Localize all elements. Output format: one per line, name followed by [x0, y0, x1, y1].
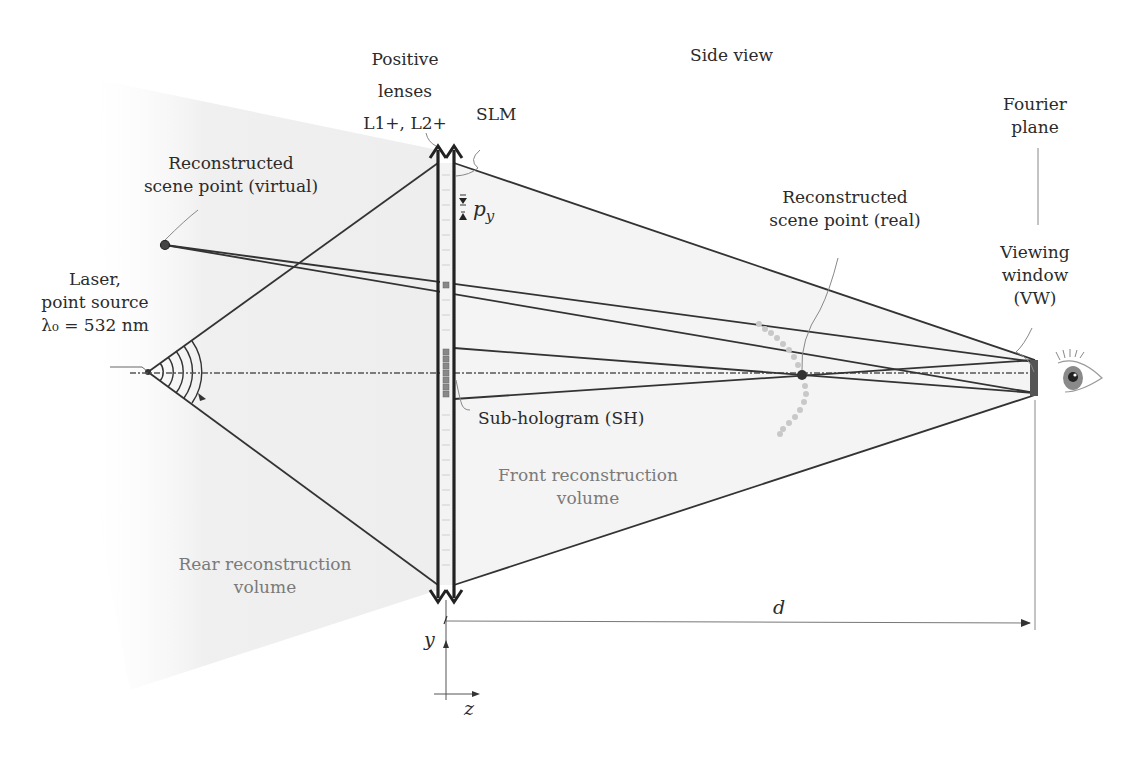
- eye-icon: [1056, 349, 1102, 392]
- distance-d-label: d: [773, 596, 785, 619]
- y-axis-arrow-icon: [443, 640, 449, 648]
- hologram-display-diagram: Side view Positive lenses L1+, L2+ SLM p…: [0, 0, 1139, 758]
- positive-lenses-line2: lenses: [350, 80, 460, 103]
- positive-lenses-line1: Positive: [350, 48, 460, 71]
- pixel-pitch-subscript: y: [486, 207, 494, 225]
- front-volume-label: Front reconstruction volume: [478, 464, 698, 510]
- real-point-line1: Reconstructed: [760, 186, 930, 209]
- laser-label: Laser, point source λ₀ = 532 nm: [20, 268, 170, 337]
- fourier-plane-line1: Fourier: [995, 93, 1075, 116]
- rear-volume-label: Rear reconstruction volume: [160, 553, 370, 599]
- sub-hologram-label: Sub-hologram (SH): [478, 407, 644, 430]
- pixel-pitch-label: py: [473, 198, 494, 228]
- virtual-point-line2: scene point (virtual): [126, 175, 336, 198]
- laser-line1: Laser,: [20, 268, 170, 291]
- slm-label: SLM: [476, 103, 516, 126]
- rear-volume-line2: volume: [160, 576, 370, 599]
- laser-source-point: [145, 369, 151, 375]
- front-volume-shade: [454, 163, 1035, 585]
- fourier-plane-label: Fourier plane: [995, 93, 1075, 139]
- diagram-canvas: [0, 0, 1139, 758]
- real-point-label: Reconstructed scene point (real): [760, 186, 930, 232]
- distance-d-arrow: [446, 621, 1030, 623]
- laser-line2: point source: [20, 291, 170, 314]
- y-axis-label: y: [424, 628, 435, 651]
- viewing-window-line1: Viewing: [995, 241, 1075, 264]
- viewing-window-line3: (VW): [995, 287, 1075, 310]
- positive-lenses-label: Positive lenses L1+, L2+: [350, 48, 460, 135]
- laser-line3: λ₀ = 532 nm: [20, 314, 170, 337]
- viewing-window-label: Viewing window (VW): [995, 241, 1075, 310]
- front-volume-line1: Front reconstruction: [478, 464, 698, 487]
- diagram-title: Side view: [690, 44, 773, 67]
- virtual-point-label: Reconstructed scene point (virtual): [126, 152, 336, 198]
- real-point-line2: scene point (real): [760, 209, 930, 232]
- virtual-scene-point: [161, 241, 170, 250]
- virtual-point-sh-pixel: [443, 282, 449, 288]
- virtual-point-line1: Reconstructed: [126, 152, 336, 175]
- real-scene-point: [797, 370, 807, 380]
- z-axis-label: z: [464, 697, 474, 720]
- sub-hologram-pixels: [443, 349, 449, 397]
- viewing-window-line2: window: [995, 264, 1075, 287]
- positive-lenses-line3: L1+, L2+: [350, 112, 460, 135]
- front-volume-line2: volume: [478, 487, 698, 510]
- fourier-plane-line2: plane: [995, 116, 1075, 139]
- pixel-pitch-symbol: p: [473, 197, 486, 221]
- rear-volume-line1: Rear reconstruction: [160, 553, 370, 576]
